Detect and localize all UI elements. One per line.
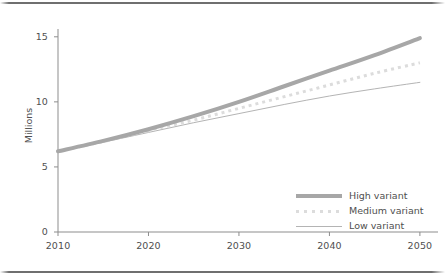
data-line-low-variant	[58, 82, 420, 151]
legend-label-medium-variant: Medium variant	[349, 205, 424, 217]
legend-item-medium-variant[interactable]: Medium variant	[296, 203, 424, 218]
y-tick-label: 5	[22, 161, 48, 172]
x-tick-label: 2030	[219, 240, 259, 251]
legend-label-low-variant: Low variant	[349, 220, 404, 232]
legend-label-high-variant: High variant	[349, 190, 407, 202]
x-tick-label: 2040	[309, 240, 349, 251]
chart-legend: High variant Medium variant Low variant	[296, 188, 424, 233]
dotted-line-swatch-icon	[296, 205, 342, 217]
y-axis-title: Millions	[23, 91, 34, 161]
x-tick-label: 2050	[400, 240, 440, 251]
thick-solid-line-swatch-icon	[296, 190, 342, 202]
y-tick-label: 0	[22, 226, 48, 237]
chart-figure: 051015 20102020203020402050 Millions Hig…	[0, 0, 445, 280]
x-tick-label: 2020	[128, 240, 168, 251]
data-line-high-variant	[58, 38, 420, 151]
y-tick-marks	[54, 37, 58, 232]
data-series-group	[58, 38, 420, 151]
y-tick-label: 15	[22, 31, 48, 42]
legend-item-high-variant[interactable]: High variant	[296, 188, 424, 203]
legend-item-low-variant[interactable]: Low variant	[296, 218, 424, 233]
thin-solid-line-swatch-icon	[296, 220, 342, 232]
plot-canvas	[0, 0, 445, 280]
x-tick-label: 2010	[38, 240, 78, 251]
